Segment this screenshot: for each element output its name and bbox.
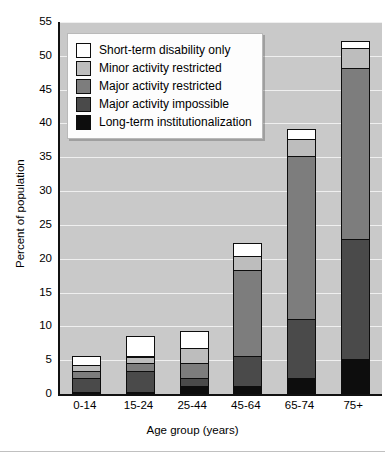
bar-segment: [180, 363, 209, 379]
y-axis-tick-20: 20: [0, 253, 52, 265]
legend-item-2: Major activity restricted: [76, 77, 252, 95]
legend-label: Minor activity restricted: [99, 62, 222, 75]
bar-0-14: [72, 357, 101, 394]
bar-segment: [341, 68, 370, 239]
bar-15-24: [126, 337, 155, 394]
bar-segment: [341, 41, 370, 49]
bar-segment: [287, 129, 316, 140]
bar-segment: [180, 348, 209, 364]
y-axis-label: Percent of population: [14, 159, 26, 268]
gridline: [60, 326, 382, 327]
legend-swatch-icon: [76, 115, 91, 130]
bar-65-74: [287, 130, 316, 394]
bar-segment: [180, 386, 209, 394]
bottom-divider: [0, 451, 385, 452]
legend-swatch-icon: [76, 97, 91, 112]
legend-swatch-icon: [76, 61, 91, 76]
bar-segment: [287, 156, 316, 319]
bar-segment: [287, 139, 316, 157]
bar-45-64: [233, 244, 262, 394]
bar-25-44: [180, 332, 209, 394]
bar-segment: [341, 359, 370, 394]
legend-swatch-icon: [76, 43, 91, 58]
gridline: [60, 360, 382, 361]
x-axis-tick-65-74: 65-74: [273, 399, 327, 411]
x-axis-label: Age group (years): [0, 424, 385, 436]
legend: Short-term disability onlyMinor activity…: [67, 33, 263, 139]
gridline: [60, 157, 382, 158]
bar-segment: [126, 363, 155, 372]
stacked-bar-chart: Percent of population 051015202530354045…: [0, 0, 385, 457]
legend-item-1: Minor activity restricted: [76, 59, 252, 77]
gridline: [60, 22, 382, 23]
y-axis-tick-25: 25: [0, 219, 52, 231]
bar-segment: [287, 319, 316, 380]
bar-segment: [180, 331, 209, 350]
y-axis-tick-50: 50: [0, 50, 52, 62]
bar-segment: [72, 378, 101, 393]
bar-segment: [341, 48, 370, 69]
bar-segment: [233, 270, 262, 357]
x-axis-tick-25-44: 25-44: [165, 399, 219, 411]
x-axis-tick-75+: 75+: [326, 399, 380, 411]
y-axis-tick-55: 55: [0, 16, 52, 28]
bar-segment: [287, 378, 316, 394]
bar-segment: [126, 371, 155, 392]
bar-segment: [126, 336, 155, 357]
bar-segment: [126, 357, 155, 365]
bar-segment: [233, 243, 262, 258]
bar-segment: [233, 256, 262, 271]
bar-segment: [341, 239, 370, 360]
bar-segment: [72, 356, 101, 366]
y-axis-tick-35: 35: [0, 151, 52, 163]
legend-label: Major activity impossible: [99, 98, 229, 111]
y-axis-tick-15: 15: [0, 287, 52, 299]
y-axis-tick-10: 10: [0, 320, 52, 332]
legend-swatch-icon: [76, 79, 91, 94]
bar-segment: [233, 386, 262, 394]
bar-segment: [72, 371, 101, 379]
bar-75+: [341, 42, 370, 394]
gridline: [60, 225, 382, 226]
x-axis-tick-0-14: 0-14: [58, 399, 112, 411]
bar-segment: [180, 378, 209, 387]
x-axis-tick-15-24: 15-24: [112, 399, 166, 411]
legend-label: Major activity restricted: [99, 80, 222, 93]
y-axis-tick-5: 5: [0, 354, 52, 366]
bar-segment: [72, 365, 101, 373]
legend-item-4: Long-term institutionalization: [76, 113, 252, 131]
y-axis-tick-40: 40: [0, 117, 52, 129]
y-axis-tick-0: 0: [0, 388, 52, 400]
legend-item-3: Major activity impossible: [76, 95, 252, 113]
legend-item-0: Short-term disability only: [76, 41, 252, 59]
legend-label: Long-term institutionalization: [99, 116, 252, 129]
x-axis-tick-45-64: 45-64: [219, 399, 273, 411]
y-axis-tick-45: 45: [0, 84, 52, 96]
bar-segment: [233, 356, 262, 387]
gridline: [60, 293, 382, 294]
legend-label: Short-term disability only: [99, 44, 230, 57]
gridline: [60, 191, 382, 192]
y-axis-tick-30: 30: [0, 185, 52, 197]
gridline: [60, 259, 382, 260]
